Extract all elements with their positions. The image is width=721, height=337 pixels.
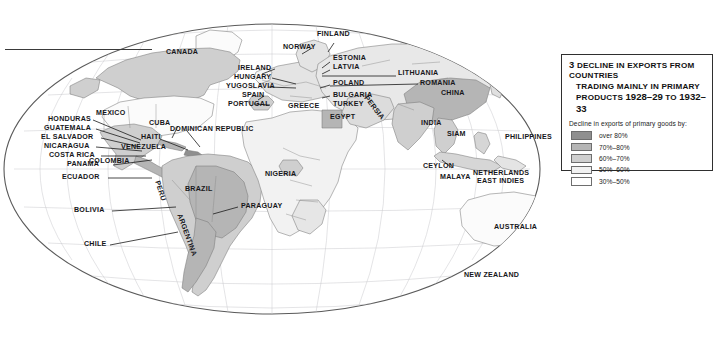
label-canada: CANADA: [166, 49, 198, 56]
label-netherlands-east-indies-2: EAST INDIES: [477, 178, 524, 185]
label-bolivia: BOLIVIA: [74, 207, 105, 214]
legend-row: 60%–70%: [569, 153, 706, 164]
label-nicaragua: NICARAGUA: [44, 143, 90, 150]
label-egypt: EGYPT: [330, 114, 355, 121]
top-rule: [5, 49, 152, 50]
legend-row: 50%–60%: [569, 164, 706, 175]
label-paraguay: PARAGUAY: [241, 203, 282, 210]
label-australia: AUSTRALIA: [494, 224, 537, 231]
label-honduras: HONDURAS: [48, 116, 91, 123]
label-lithuania: LITHUANIA: [398, 70, 438, 77]
label-colombia: COLOMBIA: [89, 158, 130, 165]
label-nigeria: NIGERIA: [265, 171, 296, 178]
label-haiti: HAITI: [141, 134, 161, 141]
legend-swatch-60-70: [571, 154, 592, 163]
legend-label-50-60: 50%–60%: [599, 166, 630, 173]
label-hungary: HUNGARY: [234, 74, 271, 81]
label-new-zealand: NEW ZEALAND: [464, 272, 519, 279]
label-romania: ROMANIA: [420, 80, 456, 87]
legend-row: over 80%: [569, 130, 706, 141]
label-el-salvador: EL SALVADOR: [41, 134, 93, 141]
legend-label-30-50: 30%–50%: [599, 178, 630, 185]
label-mexico: MEXICO: [96, 110, 125, 117]
figure-number: 3: [569, 59, 574, 70]
label-ecuador: ECUADOR: [62, 174, 100, 181]
label-cuba: CUBA: [149, 120, 171, 127]
label-malaya: MALAYA: [440, 174, 471, 181]
legend-label-70-80: 70%–80%: [599, 144, 630, 151]
label-latvia: LATVIA: [333, 64, 360, 71]
label-yugoslavia: YUGOSLAVIA: [226, 83, 275, 90]
figure-title-line1: Decline in exports from countries: [569, 61, 694, 80]
label-turkey: TURKEY: [333, 101, 364, 108]
legend-swatch-50-60: [571, 166, 592, 175]
label-philippines: PHILIPPINES: [505, 134, 552, 141]
label-dominican-republic: DOMINICAN REPUBLIC: [170, 126, 254, 133]
legend-label-60-70: 60%–70%: [599, 155, 630, 162]
label-ireland: IRELAND: [238, 65, 271, 72]
label-guatemala: GUATEMALA: [44, 125, 91, 132]
legend-row: 30%–50%: [569, 176, 706, 187]
label-estonia: ESTONIA: [333, 55, 366, 62]
label-poland: POLAND: [333, 80, 364, 87]
legend-panel: 3 Decline in exports from countries trad…: [561, 54, 713, 171]
legend-title: 3 Decline in exports from countries trad…: [569, 60, 706, 115]
label-brazil: BRAZIL: [185, 186, 213, 193]
land-tasmania: [510, 242, 522, 252]
figure-years-connector: to: [665, 93, 677, 102]
label-greece: GREECE: [288, 103, 319, 110]
label-spain: SPAIN: [242, 92, 264, 99]
label-norway: NORWAY: [283, 44, 316, 51]
figure-title-products: products: [576, 93, 623, 102]
label-finland: FINLAND: [317, 31, 350, 38]
land-new-zealand: [534, 248, 550, 270]
legend-swatch-70-80: [571, 143, 592, 152]
figure-title-line3: products 1928–29 to 1932–33: [569, 92, 706, 115]
legend-swatch-30-50: [571, 177, 592, 186]
figure-years-start: 1928–29: [625, 91, 662, 102]
label-india: INDIA: [421, 120, 442, 127]
label-venezuela: VENEZUELA: [121, 144, 166, 151]
legend-swatch-over-80: [571, 131, 592, 140]
legend-label-over-80: over 80%: [599, 132, 628, 139]
label-china: CHINA: [441, 90, 465, 97]
legend-entries: over 80% 70%–80% 60%–70% 50%–60% 30%–50%: [569, 130, 706, 187]
label-ceylon: CEYLON: [423, 163, 454, 170]
label-costa-rica: COSTA RICA: [49, 152, 95, 159]
legend-subtitle: Decline in exports of primary goods by:: [569, 120, 706, 127]
legend-row: 70%–80%: [569, 141, 706, 152]
land-australia: [460, 192, 550, 246]
map-figure: CANADA MEXICO CUBA HAITI DOMINICAN REPUB…: [0, 0, 721, 337]
label-siam: SIAM: [447, 131, 466, 138]
label-chile: CHILE: [84, 241, 107, 248]
label-portugal: PORTUGAL: [228, 101, 270, 108]
